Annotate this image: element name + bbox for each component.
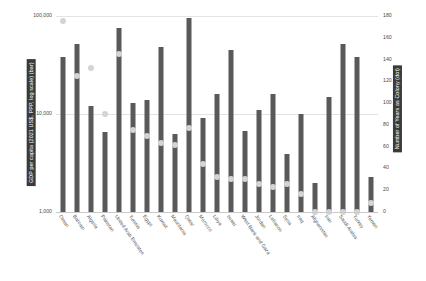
data-point-dot — [242, 176, 248, 182]
bar — [103, 132, 108, 212]
x-tick-label: Iraq — [296, 214, 305, 224]
bar — [61, 57, 66, 212]
data-point-dot — [368, 200, 374, 206]
data-point-dot — [130, 127, 136, 133]
data-point-dot — [298, 191, 304, 197]
right-tick-label: 140 — [383, 57, 392, 62]
right-tick-label: 20 — [383, 188, 389, 193]
x-tick-label: Tunisia — [128, 214, 141, 230]
data-point-dot — [158, 140, 164, 146]
data-point-dot — [200, 161, 206, 167]
x-tick-label: Turkey — [352, 214, 365, 229]
data-point-dot — [74, 73, 80, 79]
right-tick-label: 180 — [383, 13, 392, 18]
bar — [243, 131, 248, 212]
x-tick-label: Kuwait — [156, 214, 169, 229]
bar — [131, 103, 136, 212]
bar — [89, 106, 94, 212]
right-tick-label: 100 — [383, 101, 392, 106]
right-tick-label: 80 — [383, 122, 389, 127]
bar — [355, 57, 360, 212]
bar — [145, 100, 150, 212]
left-tick-label: 10,000 — [36, 111, 52, 116]
right-tick-label: 40 — [383, 166, 389, 171]
left-tick-label: 100,000 — [33, 13, 52, 18]
bar — [257, 110, 262, 212]
bar — [229, 50, 234, 212]
right-tick-label: 120 — [383, 79, 392, 84]
x-tick-label: Syria — [282, 214, 293, 226]
x-axis-labels: OmanBahrainAlgeriaPakistanUnited Arab Em… — [0, 214, 426, 281]
data-point-dot — [186, 125, 192, 131]
x-tick-label: Israel — [226, 214, 237, 227]
x-tick-label: Iran — [324, 214, 333, 224]
x-tick-label: Pakistan — [100, 214, 115, 233]
right-tick-label: 160 — [383, 35, 392, 40]
bar — [369, 177, 374, 212]
x-tick-label: Libya — [212, 214, 223, 227]
data-point-dot — [172, 142, 178, 148]
x-tick-label: Morocco — [198, 214, 213, 233]
data-point-dot — [88, 65, 94, 71]
bar — [271, 94, 276, 212]
data-point-dot — [256, 181, 262, 187]
bar — [187, 18, 192, 212]
bar — [159, 47, 164, 212]
bar — [215, 94, 220, 212]
x-tick-label: Algeria — [86, 214, 99, 230]
x-tick-label: Egypt — [142, 214, 153, 227]
data-point-dot — [228, 176, 234, 182]
plot-area — [56, 16, 378, 212]
x-tick-label: Jordan — [254, 214, 267, 229]
bar — [313, 183, 318, 213]
x-tick-label: Bahrain — [72, 214, 86, 231]
data-point-dot — [116, 51, 122, 57]
left-axis-ticks: 1,00010,000100,000 — [18, 16, 52, 212]
bar — [75, 44, 80, 212]
data-point-dot — [284, 181, 290, 187]
data-point-dot — [102, 111, 108, 117]
data-point-dot — [214, 174, 220, 180]
chart-container: GDP per capita (2021 US$, PPP, log scale… — [0, 0, 426, 281]
x-tick-label: Qatar — [184, 214, 195, 227]
right-tick-label: 60 — [383, 144, 389, 149]
data-point-dot — [144, 133, 150, 139]
right-axis-ticks: 020406080100120140160180 — [383, 16, 413, 212]
x-tick-label: Oman — [58, 214, 70, 228]
bar — [327, 97, 332, 212]
data-point-dot — [270, 184, 276, 190]
bar — [299, 114, 304, 212]
x-tick-label: Yemen — [366, 214, 379, 229]
bar — [341, 44, 346, 212]
gridline — [56, 16, 378, 17]
data-point-dot — [60, 18, 66, 24]
